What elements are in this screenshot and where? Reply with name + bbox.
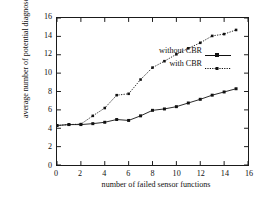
x-tick-label: 12 [192, 169, 210, 178]
x-tick-label: 8 [144, 169, 162, 178]
data-point-marker [115, 94, 118, 97]
y-tick-label: 8 [36, 88, 52, 96]
data-point-marker [115, 118, 118, 121]
data-point-marker [139, 114, 142, 117]
data-point-marker [127, 119, 130, 122]
legend-line-dotted-icon [205, 64, 231, 73]
data-point-marker [223, 33, 226, 36]
x-tick-label: 0 [47, 169, 65, 178]
y-tick-label: 16 [36, 13, 52, 21]
legend-label-with-cbr: with CBR [169, 59, 205, 68]
y-tick-label: 14 [36, 32, 52, 40]
data-point-marker [103, 107, 106, 110]
data-point-marker [175, 105, 178, 108]
legend-swatch-without-cbr [205, 46, 231, 55]
plot-area: without CBR with CBR [56, 17, 249, 166]
data-point-marker [103, 121, 106, 124]
legend-label-without-cbr: without CBR [159, 46, 205, 55]
series-line-0 [57, 89, 236, 126]
data-point-marker [187, 102, 190, 105]
x-tick-label: 4 [95, 169, 113, 178]
legend: without CBR with CBR [121, 44, 231, 70]
data-point-marker [127, 93, 130, 96]
x-tick-label: 10 [168, 169, 186, 178]
data-point-marker [235, 87, 238, 90]
y-axis-tick-labels: 0246810121416 [34, 0, 52, 197]
x-tick-label: 14 [216, 169, 234, 178]
y-tick-label: 12 [36, 50, 52, 58]
x-tick-label: 6 [119, 169, 137, 178]
data-point-marker [199, 98, 202, 101]
x-tick-label: 2 [71, 169, 89, 178]
data-point-marker [235, 29, 238, 32]
y-tick-label: 2 [36, 143, 52, 151]
x-tick-label: 16 [240, 169, 258, 178]
data-point-marker [68, 123, 71, 126]
chart-figure: average number of potential diagnoses 02… [0, 0, 272, 197]
data-point-marker [91, 122, 94, 125]
data-point-marker [57, 124, 58, 127]
legend-item-without-cbr[interactable]: without CBR [121, 44, 231, 57]
x-axis-title: number of failed sensor functions [56, 180, 256, 189]
y-tick-label: 10 [36, 69, 52, 77]
data-point-marker [211, 94, 214, 97]
data-point-marker [139, 78, 142, 81]
data-point-marker [80, 123, 83, 126]
data-point-marker [163, 107, 166, 110]
y-tick-label: 6 [36, 106, 52, 114]
data-point-marker [223, 90, 226, 93]
legend-item-with-cbr[interactable]: with CBR [121, 57, 231, 70]
y-tick-label: 4 [36, 125, 52, 133]
data-point-marker [151, 109, 154, 112]
data-point-marker [92, 115, 95, 118]
axis-ticks [57, 18, 248, 165]
y-axis-title: average number of potential diagnoses [21, 0, 30, 142]
data-point-marker [211, 35, 214, 38]
series-canvas [57, 18, 248, 165]
legend-swatch-with-cbr [205, 59, 231, 68]
